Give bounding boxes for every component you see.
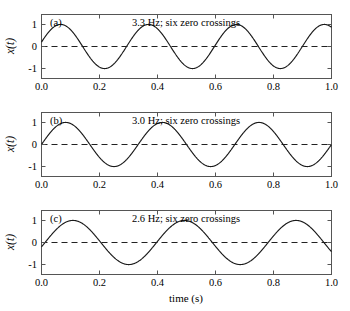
panel-b-ytick-0: 0 [32,139,37,150]
panel-c: 1 0 -1 0.0 0.2 0.4 0.6 0.8 1.0 [0,206,350,311]
panel-b-ytick-1: 1 [32,117,37,128]
panel-c-label: (c) [50,213,62,225]
panel-a-xtick-1: 0.2 [93,81,106,92]
panel-a-ytick-0: 0 [32,41,37,52]
panel-c-ytick-1: 1 [32,215,37,226]
panel-b-ylabel: x(t) [4,136,17,153]
panel-a-xtick-5: 1.0 [325,81,338,92]
panel-a-svg: 1 0 -1 0.0 0.2 0.4 0.6 0.8 [0,10,350,102]
panel-c-xtick-0: 0.0 [35,277,48,288]
panel-b-ytick-neg1: -1 [28,161,37,172]
x-axis-label: time (s) [169,292,203,305]
panel-a-xtick-2: 0.4 [151,81,165,92]
panel-a-ytick-1: 1 [32,19,37,30]
panel-c-title: 2.6 Hz; six zero crossings [132,213,240,224]
panel-c-svg: 1 0 -1 0.0 0.2 0.4 0.6 0.8 1.0 [0,206,350,311]
panel-b: 1 0 -1 0.0 0.2 0.4 0.6 0.8 1.0 [0,108,350,200]
panel-c-ytick-neg1: -1 [28,259,37,270]
panel-b-title: 3.0 Hz; six zero crossings [132,115,240,126]
panel-c-xtick-2: 0.4 [151,277,165,288]
panel-b-label: (b) [50,115,63,127]
panel-a-xtick-4: 0.8 [267,81,280,92]
panel-c-xtick-1: 0.2 [93,277,106,288]
figure-container: 1 0 -1 0.0 0.2 0.4 0.6 0.8 [0,0,350,311]
panel-b-xtick-5: 1.0 [325,179,338,190]
panel-a-xtick-0: 0.0 [35,81,48,92]
panel-c-xtick-5: 1.0 [325,277,338,288]
panel-b-xtick-3: 0.6 [209,179,222,190]
panel-a-title: 3.3 Hz; six zero crossings [132,17,240,28]
panel-a: 1 0 -1 0.0 0.2 0.4 0.6 0.8 [0,10,350,102]
panel-b-xtick-1: 0.2 [93,179,106,190]
panel-b-xtick-4: 0.8 [267,179,280,190]
panel-a-xtick-3: 0.6 [209,81,222,92]
panel-a-ylabel: x(t) [4,38,17,55]
panel-a-label: (a) [50,17,62,29]
panel-c-xtick-3: 0.6 [209,277,222,288]
panel-c-xtick-4: 0.8 [267,277,280,288]
panel-c-ytick-0: 0 [32,237,37,248]
panel-a-ytick-neg1: -1 [28,63,37,74]
panel-c-ylabel: x(t) [4,234,17,251]
panel-b-xtick-2: 0.4 [151,179,165,190]
panel-b-svg: 1 0 -1 0.0 0.2 0.4 0.6 0.8 1.0 [0,108,350,200]
panel-b-xtick-0: 0.0 [35,179,48,190]
